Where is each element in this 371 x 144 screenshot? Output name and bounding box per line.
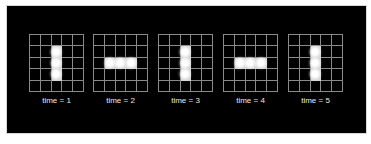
figure-panel: time = 1 time = 2 time = 3 time = 4 time… bbox=[7, 6, 366, 133]
dead-cell bbox=[126, 46, 137, 57]
dead-cell bbox=[94, 58, 105, 69]
live-cell bbox=[181, 46, 192, 57]
dead-cell bbox=[41, 81, 52, 92]
dead-cell bbox=[191, 69, 202, 80]
dead-cell bbox=[267, 58, 278, 69]
dead-cell bbox=[94, 35, 105, 46]
dead-cell bbox=[116, 46, 127, 57]
frame-time-3: time = 3 bbox=[158, 34, 213, 105]
dead-cell bbox=[332, 69, 343, 80]
dead-cell bbox=[246, 35, 257, 46]
live-cell bbox=[126, 58, 137, 69]
dead-cell bbox=[62, 35, 73, 46]
dead-cell bbox=[62, 46, 73, 57]
dead-cell bbox=[137, 81, 148, 92]
live-cell bbox=[181, 69, 192, 80]
dead-cell bbox=[30, 35, 41, 46]
dead-cell bbox=[116, 35, 127, 46]
dead-cell bbox=[30, 69, 41, 80]
dead-cell bbox=[300, 58, 311, 69]
dead-cell bbox=[126, 81, 137, 92]
dead-cell bbox=[181, 35, 192, 46]
dead-cell bbox=[332, 35, 343, 46]
dead-cell bbox=[170, 81, 181, 92]
dead-cell bbox=[159, 35, 170, 46]
dead-cell bbox=[321, 46, 332, 57]
dead-cell bbox=[159, 46, 170, 57]
dead-cell bbox=[137, 35, 148, 46]
dead-cell bbox=[159, 69, 170, 80]
dead-cell bbox=[224, 35, 235, 46]
dead-cell bbox=[224, 69, 235, 80]
live-cell bbox=[52, 46, 63, 57]
dead-cell bbox=[159, 81, 170, 92]
dead-cell bbox=[191, 81, 202, 92]
dead-cell bbox=[30, 81, 41, 92]
dead-cell bbox=[73, 81, 84, 92]
live-cell bbox=[246, 58, 257, 69]
dead-cell bbox=[246, 46, 257, 57]
dead-cell bbox=[256, 46, 267, 57]
dead-cell bbox=[300, 81, 311, 92]
cell-grid bbox=[93, 34, 148, 92]
live-cell bbox=[181, 58, 192, 69]
dead-cell bbox=[267, 81, 278, 92]
frame-time-2: time = 2 bbox=[93, 34, 148, 105]
cell-grid bbox=[158, 34, 213, 92]
dead-cell bbox=[73, 35, 84, 46]
dead-cell bbox=[256, 81, 267, 92]
dead-cell bbox=[256, 35, 267, 46]
dead-cell bbox=[300, 46, 311, 57]
dead-cell bbox=[41, 69, 52, 80]
dead-cell bbox=[191, 58, 202, 69]
live-cell bbox=[235, 58, 246, 69]
cell-grid bbox=[29, 34, 84, 92]
dead-cell bbox=[137, 69, 148, 80]
dead-cell bbox=[94, 69, 105, 80]
frame-label: time = 1 bbox=[29, 96, 84, 105]
live-cell bbox=[116, 58, 127, 69]
frame-label: time = 5 bbox=[288, 96, 343, 105]
live-cell bbox=[105, 58, 116, 69]
dead-cell bbox=[311, 81, 322, 92]
dead-cell bbox=[137, 46, 148, 57]
dead-cell bbox=[170, 69, 181, 80]
frame-time-5: time = 5 bbox=[288, 34, 343, 105]
dead-cell bbox=[321, 58, 332, 69]
dead-cell bbox=[73, 58, 84, 69]
dead-cell bbox=[94, 81, 105, 92]
cell-grid bbox=[288, 34, 343, 92]
dead-cell bbox=[62, 58, 73, 69]
frame-label: time = 4 bbox=[223, 96, 278, 105]
dead-cell bbox=[170, 35, 181, 46]
frame-time-1: time = 1 bbox=[29, 34, 84, 105]
dead-cell bbox=[321, 69, 332, 80]
frame-time-4: time = 4 bbox=[223, 34, 278, 105]
dead-cell bbox=[41, 58, 52, 69]
cell-grid bbox=[223, 34, 278, 92]
dead-cell bbox=[300, 69, 311, 80]
dead-cell bbox=[94, 46, 105, 57]
dead-cell bbox=[235, 69, 246, 80]
dead-cell bbox=[202, 69, 213, 80]
live-cell bbox=[311, 46, 322, 57]
dead-cell bbox=[30, 46, 41, 57]
dead-cell bbox=[267, 69, 278, 80]
dead-cell bbox=[235, 35, 246, 46]
dead-cell bbox=[332, 58, 343, 69]
dead-cell bbox=[191, 35, 202, 46]
dead-cell bbox=[267, 35, 278, 46]
dead-cell bbox=[105, 81, 116, 92]
dead-cell bbox=[202, 35, 213, 46]
dead-cell bbox=[332, 46, 343, 57]
dead-cell bbox=[289, 46, 300, 57]
dead-cell bbox=[73, 69, 84, 80]
dead-cell bbox=[289, 35, 300, 46]
dead-cell bbox=[321, 81, 332, 92]
live-cell bbox=[52, 69, 63, 80]
dead-cell bbox=[137, 58, 148, 69]
dead-cell bbox=[62, 69, 73, 80]
dead-cell bbox=[105, 46, 116, 57]
dead-cell bbox=[224, 58, 235, 69]
dead-cell bbox=[332, 81, 343, 92]
